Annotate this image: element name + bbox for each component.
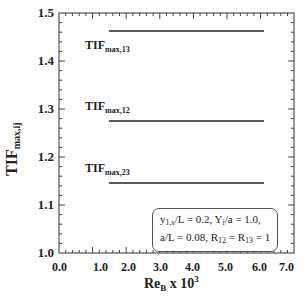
x-axis-label: ReB x 103 (144, 274, 199, 293)
x-tick-2: 2.0 (121, 260, 136, 275)
y-tick-1.1: 1.1 (24, 197, 54, 213)
y-tick-1.2: 1.2 (24, 149, 54, 165)
x-tick-7: 7.0 (279, 260, 294, 275)
annotation-line-1: y1,s/L = 0.2, Yi/a = 1.0, (160, 212, 270, 230)
parameter-annotation-box: y1,s/L = 0.2, Yi/a = 1.0, a/L = 0.08, R1… (152, 208, 278, 252)
y-tick-1.0: 1.0 (24, 245, 54, 261)
x-tick-5: 5.0 (218, 260, 233, 275)
x-tick-3: 3.0 (153, 260, 168, 275)
x-tick-0: 0.0 (52, 260, 67, 275)
series-label-tif23: TIFmax,23 (85, 161, 130, 177)
series-label-tif12: TIFmax,12 (85, 99, 130, 115)
x-tick-1: 1.0 (93, 260, 108, 275)
data-lines (109, 31, 264, 183)
y-tick-1.4: 1.4 (24, 53, 54, 69)
y-tick-1.5: 1.5 (24, 5, 54, 21)
x-tick-6: 6.0 (252, 260, 267, 275)
y-axis-label: TIFmax,ij (3, 122, 22, 176)
y-tick-1.3: 1.3 (24, 101, 54, 117)
x-tick-4: 4.0 (185, 260, 200, 275)
series-label-tif13: TIFmax,13 (85, 38, 130, 54)
annotation-line-2: a/L = 0.08, R12 = R13 = 1 (160, 230, 270, 248)
